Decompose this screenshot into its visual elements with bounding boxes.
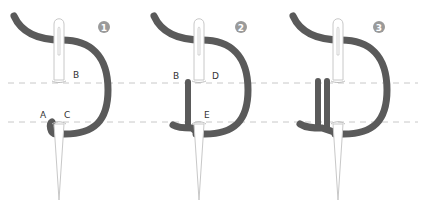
step-3: 3: [293, 16, 387, 200]
label-b: B: [73, 70, 79, 80]
step-number: 3: [376, 23, 382, 33]
needle-upper: [192, 19, 206, 83]
stitch-tail: [173, 125, 197, 132]
label-a: A: [40, 110, 47, 120]
label-c: C: [64, 110, 70, 120]
step-2: 2 B D E: [154, 16, 248, 200]
label-e: E: [204, 110, 210, 120]
stitch-diagram: 1 B A C 2 B D E: [0, 0, 421, 211]
needle-upper: [331, 19, 345, 83]
step-number: 1: [101, 23, 107, 33]
step-1: 1 B A C: [14, 16, 110, 200]
label-d: D: [212, 71, 219, 81]
label-b: B: [173, 71, 179, 81]
step-number: 2: [238, 23, 244, 33]
needle-upper: [52, 19, 66, 83]
